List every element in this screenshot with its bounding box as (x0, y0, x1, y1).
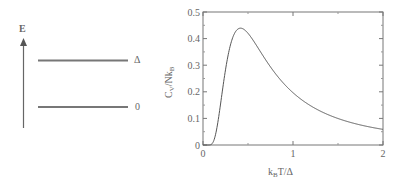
svg-text:0.1: 0.1 (188, 113, 201, 124)
svg-text:0.4: 0.4 (188, 33, 201, 44)
svg-text:0: 0 (201, 148, 206, 159)
tick-labels: 00.10.20.30.40.5012 (188, 7, 386, 160)
y-axis-title: CV/NkB (163, 66, 176, 98)
x-axis-title: kBT/Δ (268, 166, 294, 179)
heat-capacity-curve (203, 28, 383, 145)
axis-ticks (203, 12, 383, 145)
svg-text:0.2: 0.2 (188, 86, 201, 97)
svg-text:0.3: 0.3 (188, 60, 201, 71)
svg-text:0: 0 (195, 140, 200, 151)
svg-text:0.5: 0.5 (188, 7, 201, 18)
heat-capacity-plot: 00.10.20.30.40.5012 kBT/Δ CV/NkB (0, 0, 404, 181)
svg-text:1: 1 (291, 148, 296, 159)
plot-frame (203, 12, 383, 145)
svg-text:2: 2 (381, 148, 386, 159)
